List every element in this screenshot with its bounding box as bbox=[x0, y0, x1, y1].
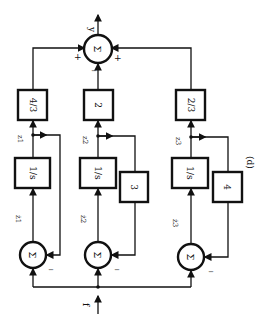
state-derivative-label: ż3 bbox=[171, 219, 179, 227]
figure-label: (d) bbox=[245, 156, 255, 169]
feedback-gain-label: 4 bbox=[222, 184, 232, 190]
integrator-label: 1/s bbox=[185, 166, 195, 180]
block-diagram: Σ y + + − 4/3 z1 1/s ż1 Σ − 2 z2 1/s bbox=[0, 0, 278, 320]
branch-3: 2/3 z3 1/s 4 ż3 Σ − bbox=[171, 90, 242, 276]
sigma-label: Σ bbox=[185, 254, 195, 260]
state-derivative-label: ż1 bbox=[14, 215, 22, 223]
integrator-label: 1/s bbox=[28, 166, 38, 180]
sigma-label: Σ bbox=[27, 252, 37, 258]
state-label-z2: z2 bbox=[81, 136, 89, 144]
integrator-label: 1/s bbox=[93, 166, 103, 180]
sigma-label: Σ bbox=[92, 46, 102, 52]
branch-1: 4/3 z1 1/s ż1 Σ − bbox=[14, 90, 60, 274]
gain-label: 2/3 bbox=[186, 98, 196, 113]
branch-2: 2 z2 1/s 3 ż2 Σ − bbox=[79, 90, 148, 274]
state-label-z1: z1 bbox=[16, 135, 24, 143]
sign-plus-right: + bbox=[114, 53, 122, 63]
gain-label: 4/3 bbox=[28, 98, 38, 113]
input-bus: f bbox=[33, 269, 191, 314]
sign-plus-left: + bbox=[74, 52, 82, 62]
sign-minus: − bbox=[208, 268, 214, 276]
sign-minus: − bbox=[48, 266, 54, 274]
gain-label: 2 bbox=[93, 102, 103, 108]
state-derivative-label: ż2 bbox=[79, 215, 87, 223]
input-f-label: f bbox=[81, 303, 91, 307]
feedback-gain-label: 3 bbox=[129, 184, 139, 190]
wire-gain3-to-sum bbox=[112, 48, 191, 90]
output-y-label: y bbox=[87, 26, 97, 33]
sigma-label: Σ bbox=[92, 252, 102, 258]
sign-minus-bottom: − bbox=[91, 67, 97, 75]
sign-minus: − bbox=[114, 266, 120, 274]
state-label-z3: z3 bbox=[174, 137, 182, 145]
